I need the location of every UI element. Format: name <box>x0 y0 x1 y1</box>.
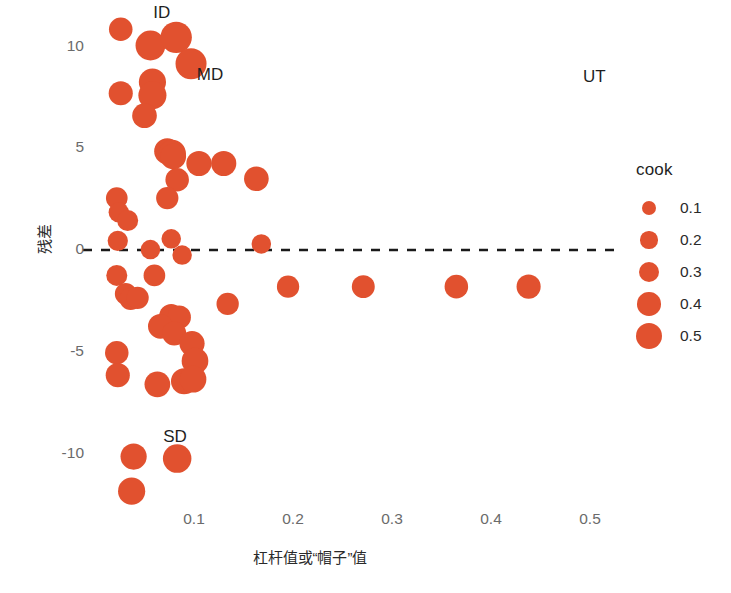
point-label-sd: SD <box>163 427 187 447</box>
data-point[interactable] <box>108 231 128 251</box>
data-point[interactable] <box>180 366 207 393</box>
x-tick-label: 0.1 <box>164 510 224 528</box>
data-point[interactable] <box>156 187 178 209</box>
data-point[interactable] <box>105 341 129 365</box>
legend-label: 0.1 <box>680 199 702 217</box>
legend-dot <box>640 231 657 248</box>
legend-dot-swatch <box>626 201 672 215</box>
y-axis-title: 残差 <box>33 214 54 264</box>
legend-label: 0.5 <box>680 327 702 345</box>
data-point[interactable] <box>132 103 157 128</box>
data-point[interactable] <box>109 17 133 41</box>
legend-dot-swatch <box>626 292 672 316</box>
data-point[interactable] <box>277 275 299 297</box>
legend-entries: 0.10.20.30.40.5 <box>626 192 731 352</box>
data-point[interactable] <box>211 151 236 176</box>
data-point[interactable] <box>352 275 375 298</box>
y-tick-label: 0 <box>75 240 84 258</box>
legend-dot-swatch <box>626 262 672 282</box>
data-point[interactable] <box>106 265 127 286</box>
data-point[interactable] <box>163 444 192 473</box>
legend-row[interactable]: 0.4 <box>626 288 731 320</box>
size-legend: cook 0.10.20.30.40.5 <box>626 160 731 352</box>
x-tick-label: 0.2 <box>263 510 323 528</box>
point-label-id: ID <box>153 3 170 23</box>
y-tick-label: -5 <box>70 342 84 360</box>
legend-dot <box>642 201 656 215</box>
data-point[interactable] <box>126 287 148 309</box>
data-point[interactable] <box>244 166 269 191</box>
legend-dot-swatch <box>626 231 672 248</box>
point-label-ut: UT <box>583 67 606 87</box>
data-point[interactable] <box>217 293 239 315</box>
legend-row[interactable]: 0.3 <box>626 256 731 288</box>
legend-dot-swatch <box>626 323 672 350</box>
legend-label: 0.4 <box>680 295 702 313</box>
legend-row[interactable]: 0.5 <box>626 320 731 352</box>
x-axis-title: 杠杆值或“帽子”值 <box>0 546 620 567</box>
data-point[interactable] <box>117 210 138 231</box>
data-point[interactable] <box>141 240 161 260</box>
legend-dot <box>636 323 663 350</box>
data-point[interactable] <box>121 443 147 469</box>
y-tick-label: -10 <box>62 444 84 462</box>
x-tick-label: 0.5 <box>560 510 620 528</box>
x-tick-label: 0.3 <box>362 510 422 528</box>
data-point[interactable] <box>106 363 130 387</box>
legend-title: cook <box>636 160 731 180</box>
data-point[interactable] <box>252 234 272 254</box>
data-point[interactable] <box>145 371 171 397</box>
y-tick-label: 5 <box>75 138 84 156</box>
data-point[interactable] <box>118 478 145 505</box>
legend-dot <box>637 292 661 316</box>
data-point[interactable] <box>186 151 211 176</box>
plot-canvas <box>0 0 731 593</box>
data-point[interactable] <box>144 265 166 287</box>
legend-row[interactable]: 0.1 <box>626 192 731 224</box>
data-point[interactable] <box>445 275 469 299</box>
data-point[interactable] <box>109 81 133 105</box>
data-point[interactable] <box>160 144 186 170</box>
x-tick-label: 0.4 <box>461 510 521 528</box>
legend-dot <box>639 262 659 282</box>
data-point[interactable] <box>161 229 181 249</box>
legend-label: 0.3 <box>680 263 702 281</box>
data-point[interactable] <box>160 22 191 53</box>
legend-row[interactable]: 0.2 <box>626 224 731 256</box>
y-tick-label: 10 <box>67 37 84 55</box>
legend-label: 0.2 <box>680 231 702 249</box>
data-point[interactable] <box>172 245 192 265</box>
data-point[interactable] <box>517 275 541 299</box>
scatter-plot-figure: 1050-5-10 0.10.20.30.40.5 IDMDUTSD 残差 杠杆… <box>0 0 731 593</box>
point-label-md: MD <box>197 65 223 85</box>
